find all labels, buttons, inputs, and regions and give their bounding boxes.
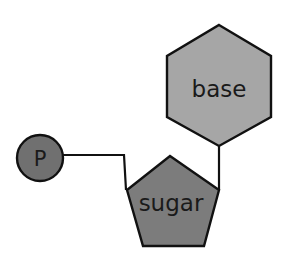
base-label: base bbox=[192, 76, 247, 102]
phosphate-label: P bbox=[34, 147, 47, 171]
phosphate-node: P bbox=[17, 135, 63, 181]
base-node: base bbox=[167, 25, 271, 146]
phosphate-sugar-bond bbox=[63, 155, 126, 190]
sugar-label: sugar bbox=[139, 190, 204, 216]
nucleotide-diagram: base sugar P bbox=[0, 0, 296, 262]
sugar-node: sugar bbox=[127, 156, 219, 246]
